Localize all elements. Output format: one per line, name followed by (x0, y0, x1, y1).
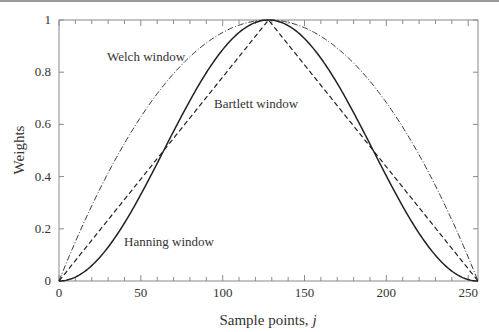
y-tick-label: 1 (45, 12, 52, 27)
bartlett-window-label: Bartlett window (214, 96, 299, 111)
x-tick-label: 200 (377, 285, 397, 300)
x-tick-label: 0 (56, 285, 63, 300)
y-tick-label: 0.4 (35, 169, 52, 184)
x-axis-title: Sample points, j (219, 312, 316, 328)
y-tick-label: 0 (45, 273, 52, 288)
hanning-window-label: Hanning window (124, 234, 215, 249)
x-tick-label: 50 (134, 285, 147, 300)
welch-window-label: Welch window (107, 49, 186, 64)
x-tick-label: 150 (295, 285, 315, 300)
x-tick-label: 250 (458, 285, 478, 300)
chart: 05010015020025000.20.40.60.81 Welch wind… (0, 0, 499, 332)
y-tick-label: 0.8 (35, 64, 51, 79)
y-tick-label: 0.6 (35, 116, 52, 131)
y-axis-title: Weights (11, 125, 27, 174)
x-tick-label: 100 (213, 285, 233, 300)
y-tick-label: 0.2 (35, 221, 51, 236)
x-axis-title-main: Sample points, (219, 312, 312, 328)
